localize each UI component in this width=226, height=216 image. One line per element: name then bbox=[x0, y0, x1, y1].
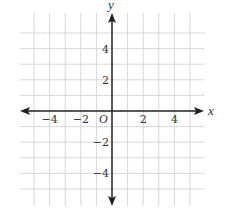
origin-label: O bbox=[99, 112, 108, 126]
labels: x y O bbox=[99, 0, 214, 126]
x-tick-label: 4 bbox=[171, 113, 178, 126]
x-tick-label: 2 bbox=[140, 113, 147, 126]
x-tick-label: −4 bbox=[41, 113, 57, 126]
y-tick-label: −4 bbox=[93, 167, 109, 180]
y-axis-label: y bbox=[106, 0, 114, 12]
x-tick-labels: −4−224 bbox=[41, 113, 177, 126]
y-tick-label: −2 bbox=[93, 136, 109, 149]
axes bbox=[20, 13, 204, 206]
y-tick-label: 2 bbox=[102, 74, 109, 87]
x-axis-label: x bbox=[207, 103, 214, 118]
x-tick-label: −2 bbox=[73, 113, 89, 126]
coordinate-plane: x y O −4−224 42−2−4 bbox=[0, 0, 226, 216]
y-tick-label: 4 bbox=[102, 43, 109, 56]
